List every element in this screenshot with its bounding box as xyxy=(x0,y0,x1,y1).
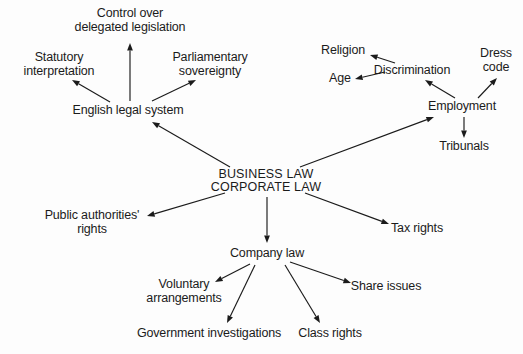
node-english-legal: English legal system xyxy=(73,104,184,118)
edge-root-to-public-auth xyxy=(147,193,225,217)
edge-company-law-to-class-rights xyxy=(285,265,320,323)
node-dress-code: Dress code xyxy=(480,47,512,74)
mind-map-diagram: BUSINESS LAW CORPORATE LAWEnglish legal … xyxy=(0,0,523,354)
edge-root-to-company-law xyxy=(264,197,270,243)
node-statutory: Statutory interpretation xyxy=(24,51,95,78)
edge-discrimination-to-religion xyxy=(370,55,395,63)
node-root: BUSINESS LAW CORPORATE LAW xyxy=(211,168,321,193)
edge-company-law-to-share-issues xyxy=(290,262,351,283)
node-tribunals: Tribunals xyxy=(439,140,489,154)
node-govt-invest: Government investigations xyxy=(137,327,281,341)
edge-english-legal-to-control xyxy=(127,43,133,101)
edge-root-to-english-legal xyxy=(152,122,230,167)
edge-root-to-tax-rights xyxy=(305,193,389,224)
node-voluntary: Voluntary arrangements xyxy=(146,278,221,305)
node-tax-rights: Tax rights xyxy=(391,222,443,236)
node-parliamentary: Parliamentary sovereignty xyxy=(172,51,247,78)
node-age: Age xyxy=(329,72,351,86)
node-employment: Employment xyxy=(428,100,496,114)
node-share-issues: Share issues xyxy=(351,280,421,294)
node-discrimination: Discrimination xyxy=(374,64,450,78)
edge-employment-to-discrimination xyxy=(425,80,455,98)
edge-employment-to-tribunals xyxy=(461,117,467,138)
node-religion: Religion xyxy=(321,44,365,58)
edge-english-legal-to-statutory xyxy=(72,80,110,102)
edge-english-legal-to-parliamentary xyxy=(152,80,196,101)
edge-root-to-employment xyxy=(300,117,434,167)
node-public-auth: Public authorities' rights xyxy=(45,209,140,236)
node-class-rights: Class rights xyxy=(298,327,362,341)
edge-employment-to-dress-code xyxy=(478,78,497,98)
node-control: Control over delegated legislation xyxy=(75,7,186,34)
node-company-law: Company law xyxy=(230,247,304,261)
